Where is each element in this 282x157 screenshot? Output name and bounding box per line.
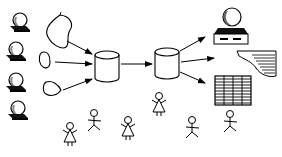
woman-stick-figure-icon xyxy=(152,93,166,117)
data-blob-icon xyxy=(47,15,72,48)
user-terminal-icon xyxy=(6,73,26,92)
man-stick-figure-icon xyxy=(224,111,237,133)
woman-stick-figure-icon xyxy=(63,123,77,147)
man-stick-figure-icon xyxy=(88,110,101,132)
woman-stick-figure-icon xyxy=(121,117,135,141)
database-cylinder-icon xyxy=(95,51,119,82)
user-terminal-icon xyxy=(8,101,28,120)
data-flow-diagram xyxy=(0,0,282,157)
database-cylinder-icon xyxy=(155,48,179,79)
user-terminal-icon xyxy=(10,13,30,32)
user-terminal-icon xyxy=(6,42,26,61)
computer-workstation-icon xyxy=(214,8,248,44)
data-blob-icon xyxy=(43,81,61,95)
spreadsheet-grid-icon xyxy=(215,76,251,105)
data-blob-icon xyxy=(39,52,50,68)
printed-report-icon xyxy=(237,51,276,77)
man-stick-figure-icon xyxy=(186,117,199,139)
